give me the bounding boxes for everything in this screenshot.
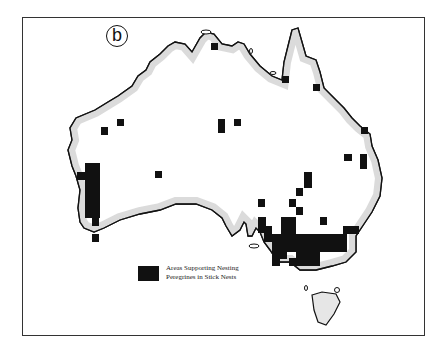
nest-cell [296,207,303,215]
nest-cell [296,188,303,196]
nest-cell [320,217,327,225]
nest-cell [258,199,265,207]
nest-cell [272,234,347,252]
nest-cell [313,84,320,91]
legend-swatch [138,266,159,281]
nest-cell [101,127,108,135]
australia-map [0,0,447,355]
nest-cell [234,119,241,126]
kangaroo-island [249,244,259,248]
mainland [68,28,382,270]
nest-cell [289,199,296,207]
panel-label: b [106,25,128,47]
tasmania [312,292,340,325]
nest-cell [92,218,99,226]
nest-cell [282,76,289,83]
nest-cell [360,154,367,169]
nest-cell [272,258,280,266]
nest-cell [344,154,352,161]
nest-cell [272,250,287,259]
melville-island [201,30,211,34]
king-island [305,286,308,291]
flinders-island [335,288,340,293]
nest-cell [218,119,225,133]
legend-text: Areas Supporting Nesting Peregrines in S… [166,264,246,282]
groote-island [250,49,253,54]
nest-cell [343,226,359,234]
nest-cell [155,171,162,178]
nest-cell [77,172,85,180]
nest-cell [296,250,320,258]
nest-cell [264,226,272,242]
nest-cell [361,127,368,134]
nest-cell [117,119,124,126]
mornington-island [270,72,276,75]
nest-cell [289,258,320,266]
nest-cell [85,163,100,218]
nest-cell [304,172,312,188]
nest-cell [211,43,218,50]
nest-cell [92,234,99,242]
